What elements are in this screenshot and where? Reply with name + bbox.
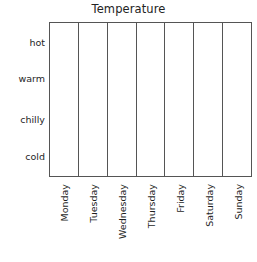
grid-column-wednesday — [108, 23, 137, 176]
x-axis-label-cell: Wednesday — [107, 177, 136, 262]
x-axis-label-cell: Monday — [49, 177, 78, 262]
x-axis: Monday Tuesday Wednesday Thursday Friday… — [49, 177, 252, 262]
temperature-chart: Temperature hot warm chilly cold Monday … — [0, 0, 257, 262]
x-axis-label-cell: Friday — [165, 177, 194, 262]
grid-column-friday — [165, 23, 194, 176]
y-axis-label-hot: hot — [0, 37, 45, 48]
y-axis-label-cold: cold — [0, 151, 45, 162]
chart-title: Temperature — [0, 2, 257, 16]
grid-column-sunday — [223, 23, 251, 176]
grid-column-saturday — [194, 23, 223, 176]
x-axis-label-monday: Monday — [58, 184, 69, 222]
x-axis-label-wednesday: Wednesday — [116, 184, 127, 239]
y-axis-label-warm: warm — [0, 73, 45, 84]
plot-area — [49, 22, 252, 177]
y-axis-label-chilly: chilly — [0, 114, 45, 125]
x-axis-label-friday: Friday — [174, 184, 185, 213]
x-axis-label-cell: Thursday — [136, 177, 165, 262]
x-axis-label-tuesday: Tuesday — [87, 184, 98, 223]
x-axis-label-cell: Tuesday — [78, 177, 107, 262]
x-axis-label-thursday: Thursday — [145, 184, 156, 228]
x-axis-label-saturday: Saturday — [203, 184, 214, 227]
grid-column-tuesday — [79, 23, 108, 176]
y-axis: hot warm chilly cold — [0, 22, 45, 177]
grid-column-monday — [50, 23, 79, 176]
x-axis-label-cell: Sunday — [223, 177, 252, 262]
grid-column-thursday — [137, 23, 166, 176]
x-axis-label-sunday: Sunday — [232, 184, 243, 220]
x-axis-label-cell: Saturday — [194, 177, 223, 262]
